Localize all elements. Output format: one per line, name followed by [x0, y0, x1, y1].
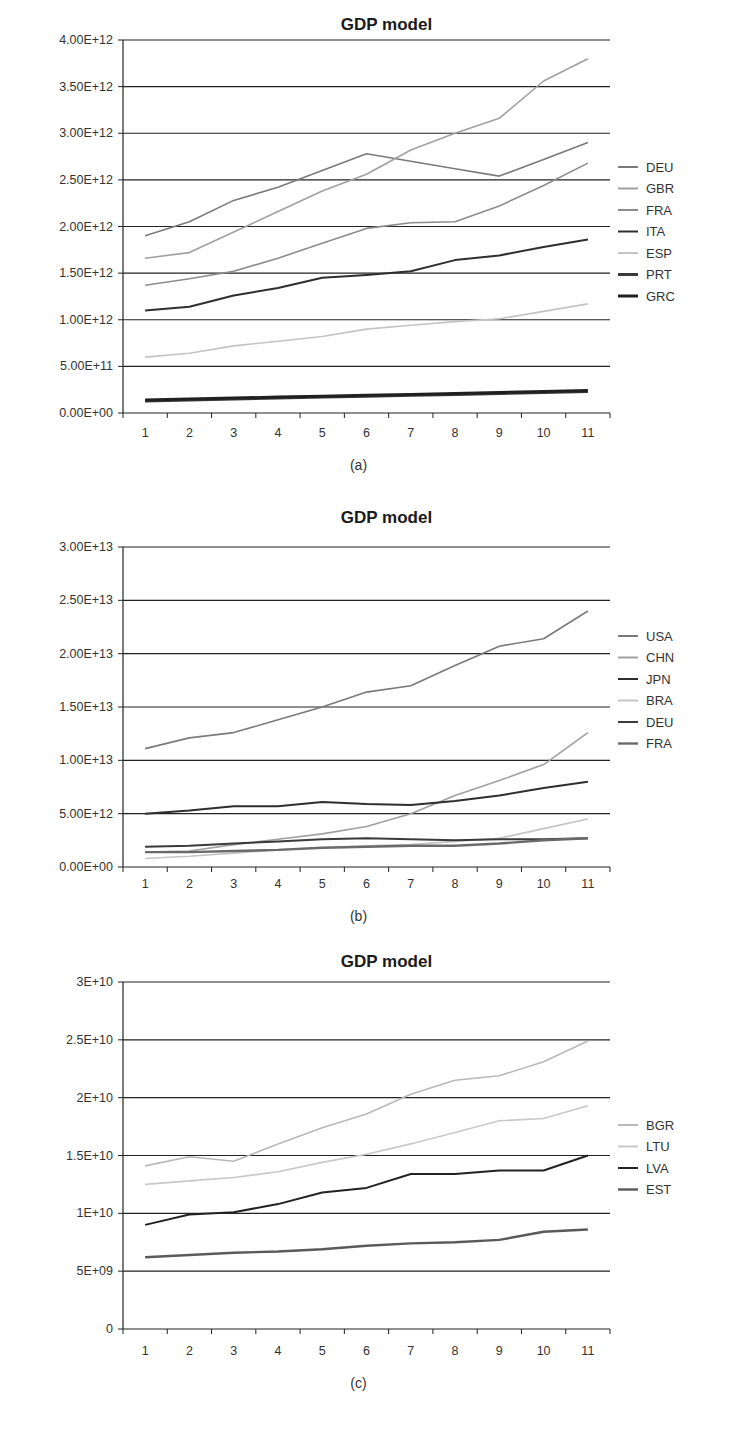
- chart-b: GDP model0.00E+005.00E+121.00E+131.50E+1…: [0, 480, 751, 935]
- legend-label: ESP: [646, 246, 672, 261]
- x-tick-label: 10: [537, 1344, 551, 1358]
- x-tick-label: 5: [319, 1344, 326, 1358]
- y-tick-label: 4.00E+12: [59, 33, 113, 47]
- x-tick-label: 8: [452, 426, 459, 440]
- chart-title: GDP model: [341, 508, 432, 527]
- x-tick-label: 11: [581, 426, 594, 440]
- series-line-est: [145, 1230, 588, 1258]
- x-tick-label: 11: [581, 1344, 594, 1358]
- series-line-bgr: [145, 1041, 588, 1166]
- x-tick-label: 1: [142, 1344, 149, 1358]
- y-tick-label: 2.5E+10: [66, 1033, 113, 1047]
- legend-label: FRA: [646, 736, 672, 751]
- x-tick-label: 4: [274, 426, 281, 440]
- x-tick-label: 1: [142, 877, 149, 891]
- x-tick-label: 10: [537, 426, 551, 440]
- legend-label: DEU: [646, 715, 673, 730]
- legend-label: BGR: [646, 1118, 674, 1133]
- y-tick-label: 1.5E+10: [66, 1149, 113, 1163]
- y-tick-label: 1.00E+12: [59, 313, 113, 327]
- chart-b-svg: GDP model0.00E+005.00E+121.00E+131.50E+1…: [0, 480, 751, 935]
- legend-label: BRA: [646, 693, 673, 708]
- x-tick-label: 5: [319, 877, 326, 891]
- series-line-fra: [145, 163, 588, 285]
- x-tick-label: 2: [186, 1344, 193, 1358]
- y-tick-label: 2.50E+13: [59, 593, 113, 607]
- x-tick-label: 2: [186, 877, 193, 891]
- y-tick-label: 2.00E+13: [59, 647, 113, 661]
- series-line-ltu: [145, 1106, 588, 1185]
- figure-caption: (b): [350, 908, 367, 924]
- y-tick-label: 1.50E+12: [59, 266, 113, 280]
- x-tick-label: 7: [407, 1344, 414, 1358]
- x-tick-label: 9: [496, 1344, 503, 1358]
- chart-c: GDP model05E+091E+101.5E+102E+102.5E+103…: [0, 935, 751, 1444]
- x-tick-label: 2: [186, 426, 193, 440]
- y-tick-label: 1.50E+13: [59, 700, 113, 714]
- x-tick-label: 3: [230, 877, 237, 891]
- y-tick-label: 2.50E+12: [59, 173, 113, 187]
- x-tick-label: 1: [142, 426, 149, 440]
- series-line-deu: [145, 143, 588, 236]
- y-tick-label: 2E+10: [77, 1091, 114, 1105]
- y-tick-label: 0.00E+00: [59, 406, 113, 420]
- legend-label: GRC: [646, 289, 675, 304]
- series-line-usa: [145, 611, 588, 749]
- x-tick-label: 9: [496, 877, 503, 891]
- x-tick-label: 11: [581, 877, 594, 891]
- x-tick-label: 7: [407, 426, 414, 440]
- x-tick-label: 9: [496, 426, 503, 440]
- y-tick-label: 2.00E+12: [59, 220, 113, 234]
- y-tick-label: 3.00E+13: [59, 540, 113, 554]
- legend-label: ITA: [646, 224, 666, 239]
- legend-label: USA: [646, 629, 673, 644]
- y-tick-label: 3.50E+12: [59, 80, 113, 94]
- y-tick-label: 0: [106, 1322, 113, 1336]
- legend-label: FRA: [646, 203, 672, 218]
- x-tick-label: 6: [363, 426, 370, 440]
- legend-label: GBR: [646, 181, 674, 196]
- series-line-esp: [145, 304, 588, 357]
- y-tick-label: 3E+10: [77, 975, 114, 989]
- legend-label: LVA: [646, 1161, 669, 1176]
- x-tick-label: 3: [230, 1344, 237, 1358]
- y-tick-label: 5.00E+12: [59, 807, 113, 821]
- chart-a: GDP model0.00E+005.00E+111.00E+121.50E+1…: [0, 0, 751, 480]
- y-tick-label: 5E+09: [77, 1264, 114, 1278]
- series-line-lva: [145, 1156, 588, 1225]
- legend-label: JPN: [646, 672, 671, 687]
- x-tick-label: 7: [407, 877, 414, 891]
- chart-a-svg: GDP model0.00E+005.00E+111.00E+121.50E+1…: [0, 0, 751, 480]
- x-tick-label: 6: [363, 877, 370, 891]
- chart-c-svg: GDP model05E+091E+101.5E+102E+102.5E+103…: [0, 935, 751, 1444]
- legend-label: DEU: [646, 160, 673, 175]
- y-tick-label: 3.00E+12: [59, 126, 113, 140]
- y-tick-label: 1.00E+13: [59, 753, 113, 767]
- x-tick-label: 4: [274, 877, 281, 891]
- x-tick-label: 6: [363, 1344, 370, 1358]
- x-tick-label: 10: [537, 877, 551, 891]
- y-tick-label: 0.00E+00: [59, 860, 113, 874]
- legend-label: LTU: [646, 1139, 670, 1154]
- x-tick-label: 5: [319, 426, 326, 440]
- figure-caption: (c): [350, 1375, 366, 1391]
- chart-title: GDP model: [341, 952, 432, 971]
- y-tick-label: 1E+10: [77, 1206, 114, 1220]
- legend-label: EST: [646, 1182, 671, 1197]
- x-tick-label: 8: [452, 877, 459, 891]
- legend-label: CHN: [646, 650, 674, 665]
- legend-label: PRT: [646, 267, 672, 282]
- x-tick-label: 3: [230, 426, 237, 440]
- x-tick-label: 4: [274, 1344, 281, 1358]
- chart-title: GDP model: [341, 15, 432, 34]
- x-tick-label: 8: [452, 1344, 459, 1358]
- figure-caption: (a): [350, 457, 367, 473]
- series-line-jpn: [145, 782, 588, 814]
- series-line-grc: [145, 391, 588, 400]
- y-tick-label: 5.00E+11: [60, 359, 113, 373]
